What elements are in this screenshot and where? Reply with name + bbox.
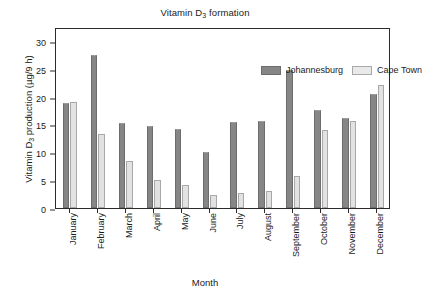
y-axis-tick-label: 5 (41, 177, 46, 187)
x-axis-tick-label-may: May (180, 213, 190, 230)
y-axis-tick-label: 30 (36, 38, 46, 48)
y-axis-tick-label: 25 (36, 66, 46, 76)
y-axis-tick-label: 10 (36, 149, 46, 159)
bar-november-cape-town (350, 121, 357, 208)
bar-may-johannesburg (175, 129, 182, 208)
y-axis-tick-label: 0 (41, 205, 46, 215)
bar-july-cape-town (238, 193, 245, 208)
chart-title-tail: formation (206, 7, 249, 18)
legend-item-johannesburg: Johannesburg (261, 65, 343, 75)
x-axis-tick-label-january: January (68, 213, 78, 245)
x-axis-tick-label-july: July (235, 213, 245, 229)
y-axis-title-main: Vitamin D (23, 142, 34, 183)
bar-december-johannesburg (370, 94, 377, 208)
plot-area: JohannesburgCape Town (55, 28, 390, 209)
bar-january-cape-town (70, 102, 77, 208)
bar-january-johannesburg (63, 103, 70, 208)
bar-february-johannesburg (91, 55, 98, 208)
legend-label: Johannesburg (286, 65, 343, 75)
legend-label: Cape Town (377, 65, 422, 75)
bar-june-johannesburg (203, 152, 210, 208)
bar-february-cape-town (98, 134, 105, 208)
x-axis-tick-label-december: December (375, 213, 385, 255)
x-axis-tick-label-august: August (263, 213, 273, 241)
bar-october-cape-town (322, 130, 329, 208)
legend-swatch-icon (352, 66, 372, 75)
x-axis-tick-labels: JanuaryFebruaryMarchAprilMayJuneJulyAugu… (55, 213, 390, 275)
y-axis-tick-label: 15 (36, 121, 46, 131)
y-axis: Vitamin D3 production (µg/9 h) 051015202… (0, 28, 55, 210)
bar-august-cape-town (266, 191, 273, 208)
bar-june-cape-town (210, 195, 217, 208)
bar-december-cape-town (378, 85, 385, 208)
bar-march-johannesburg (119, 123, 126, 208)
y-axis-title: Vitamin D3 production (µg/9 h) (23, 29, 34, 209)
y-axis-tick-label: 20 (36, 94, 46, 104)
chart-legend: JohannesburgCape Town (261, 65, 422, 75)
chart-title-subscript: 3 (202, 12, 206, 19)
bar-november-johannesburg (342, 118, 349, 208)
x-axis-tick-label-september: September (291, 213, 301, 257)
bar-april-johannesburg (147, 126, 154, 208)
bar-october-johannesburg (314, 110, 321, 208)
y-axis-title-tail: production (µg/9 h) (23, 55, 34, 138)
y-axis-title-subscript: 3 (28, 138, 35, 142)
bar-july-johannesburg (230, 122, 237, 208)
x-axis-tick-label-november: November (347, 213, 357, 255)
bar-may-cape-town (182, 185, 189, 208)
legend-item-cape-town: Cape Town (352, 65, 422, 75)
bar-august-johannesburg (258, 121, 265, 208)
x-axis-title: Month (0, 277, 410, 288)
x-axis-tick-label-february: February (96, 213, 106, 249)
x-axis-tick-label-march: March (124, 213, 134, 238)
bar-september-cape-town (294, 176, 301, 208)
x-axis-tick-label-april: April (152, 213, 162, 231)
x-axis-tick-label-june: June (208, 213, 218, 233)
chart-title-main: Vitamin D (160, 7, 202, 18)
bar-april-cape-town (154, 180, 161, 208)
bar-march-cape-town (126, 161, 133, 208)
bar-september-johannesburg (286, 70, 293, 208)
chart-title: Vitamin D3 formation (0, 7, 410, 18)
x-axis-tick-label-october: October (319, 213, 329, 245)
bars-container (56, 29, 389, 208)
legend-swatch-icon (261, 66, 281, 75)
